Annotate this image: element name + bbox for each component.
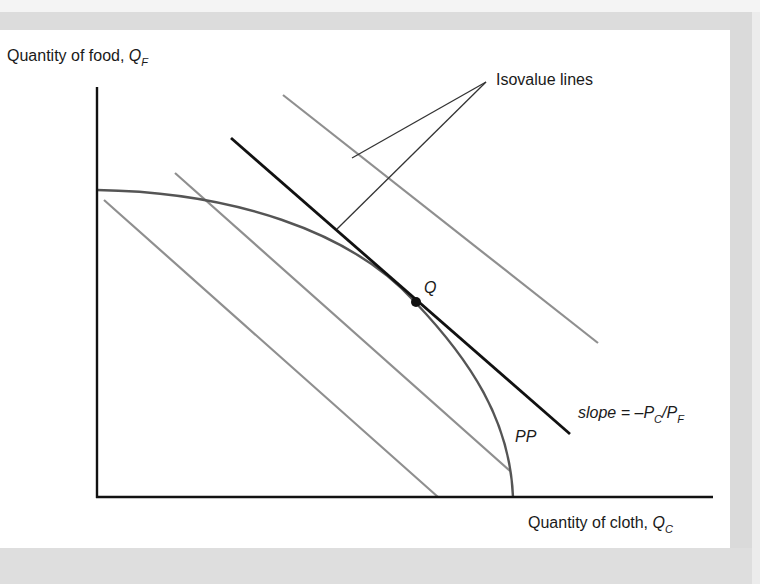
- slope-prefix: slope = –: [578, 404, 643, 421]
- y-axis-label-text: Quantity of food,: [7, 47, 129, 64]
- point-q-label: Q: [424, 279, 436, 297]
- tangent-isovalue-line: [231, 138, 570, 434]
- leader-line-1: [352, 82, 486, 158]
- isovalue-line-lowest: [104, 200, 438, 497]
- y-axis-symbol: Q: [129, 47, 141, 64]
- y-axis-subscript: F: [141, 56, 148, 68]
- x-axis-subscript: C: [665, 523, 673, 535]
- isovalue-lines-label: Isovalue lines: [496, 71, 593, 89]
- pp-curve: [97, 190, 513, 497]
- point-q-marker: [411, 297, 421, 307]
- isovalue-line-low: [175, 173, 510, 471]
- slope-numerator-subscript: C: [654, 413, 662, 425]
- slope-denominator-subscript: F: [677, 413, 684, 425]
- x-axis-label-text: Quantity of cloth,: [528, 514, 653, 531]
- slope-label: slope = –PC/PF: [578, 404, 684, 422]
- pp-curve-label: PP: [515, 428, 536, 446]
- slope-numerator: P: [643, 404, 654, 421]
- x-axis-symbol: Q: [653, 514, 665, 531]
- x-axis-label: Quantity of cloth, QC: [528, 514, 673, 532]
- slope-denominator: P: [666, 404, 677, 421]
- y-axis-label: Quantity of food, QF: [7, 47, 148, 65]
- isovalue-line-high: [283, 95, 598, 343]
- isovalue-diagram: [0, 0, 760, 584]
